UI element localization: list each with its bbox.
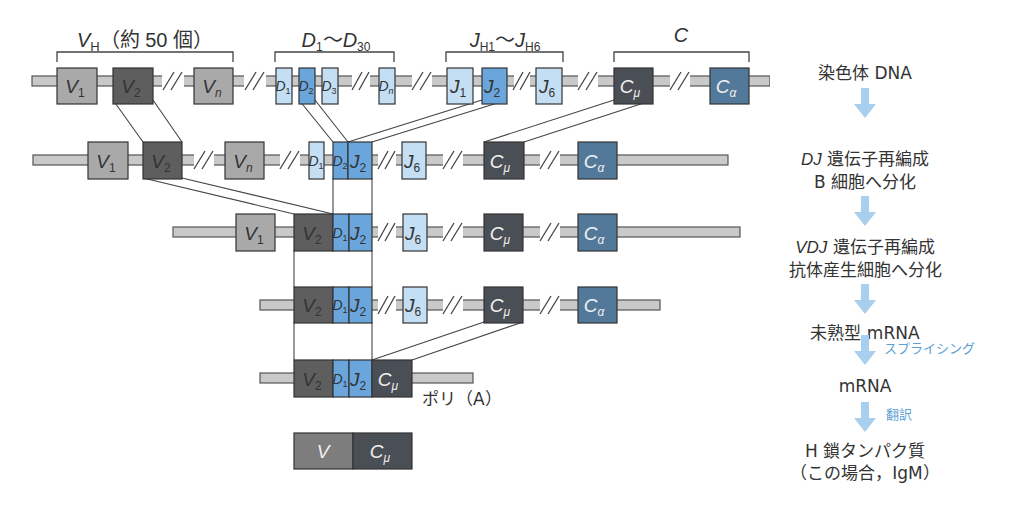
splicing-label: スプライシング (884, 338, 975, 357)
segment-Vn: Vn (194, 68, 233, 104)
c-bracket (614, 52, 749, 62)
d-bracket (275, 52, 394, 62)
translation-label: 翻訳 (886, 404, 912, 423)
row-mature-mrna: V2 D1 J2 Cμ ポリ（A） (260, 360, 502, 409)
segment-V1: V1 (236, 214, 275, 251)
segment-V2: V2 (113, 68, 153, 104)
segment-Cmu: Cμ (484, 142, 524, 179)
step-mrna: mRNA (770, 375, 960, 397)
segment-D2: D2 (298, 68, 315, 104)
step-heavy-chain-protein: H 鎖タンパク質 （この場合，IgM） (770, 440, 960, 484)
gene-rearrangement-diagram: .bar { fill: #c9c9c9; stroke: #555; stro… (0, 0, 770, 511)
segment-D3: D3 (321, 68, 338, 104)
segment-V2: V2 (294, 287, 333, 323)
segment-D1: D1 (332, 287, 349, 323)
segment-V2: V2 (294, 360, 333, 397)
segment-Calpha: Cα (578, 214, 617, 251)
d-group-label: D1〜D30 (302, 29, 371, 54)
row-pre-mrna: V2 D1 J2 J6 Cμ Cα (260, 287, 660, 323)
step-vdj-rearrangement: VDJ 遺伝子再編成 抗体産生細胞へ分化 (770, 236, 960, 281)
segment-Cmu: Cμ (372, 360, 412, 397)
step-dj-rearrangement: DJ 遺伝子再編成 B 細胞へ分化 (770, 148, 960, 193)
step-chromosome-dna: 染色体 DNA (770, 62, 960, 84)
segment-Cmu: Cμ (484, 214, 523, 251)
segment-J2: J2 (349, 287, 372, 323)
segment-J6: J6 (402, 142, 426, 179)
poly-a-label: ポリ（A） (422, 389, 502, 409)
segment-J2: J2 (482, 68, 507, 104)
row-germline-dna: V1 V2 Vn D1 D2 D3 Dn J1 J2 J6 Cμ Cα (32, 68, 770, 104)
segment-D1: D1 (332, 214, 349, 251)
segment-Vn: Vn (225, 142, 264, 179)
segment-D2: D2 (332, 142, 348, 179)
segment-Calpha: Cα (578, 142, 617, 179)
segment-V2: V2 (143, 142, 182, 179)
segment-J6: J6 (403, 287, 427, 323)
segment-J2: J2 (348, 142, 372, 179)
down-arrow-icon (854, 335, 876, 365)
vh-group-label: VH（約 50 個） (77, 29, 213, 54)
down-arrow-icon (854, 284, 876, 314)
segment-J2: J2 (349, 214, 372, 251)
row-vdj-rearranged: V1 V2 D1 J2 J6 Cμ Cα (173, 214, 740, 251)
segment-D1: D1 (332, 360, 349, 397)
group-labels: VH（約 50 個） D1〜D30 JH1〜JH6 C (57, 24, 749, 62)
segment-Calpha: Cα (578, 287, 617, 323)
c-group-label: C (674, 24, 689, 46)
row-dj-rearranged: V1 V2 Vn D1 D2 J2 J6 Cμ Cα (33, 142, 728, 179)
segment-Dn: Dn (378, 68, 395, 104)
segment-J6: J6 (403, 214, 427, 251)
segment-Cmu: Cμ (614, 68, 653, 104)
domain-V: V (294, 433, 353, 469)
down-arrow-icon (854, 88, 876, 118)
segment-Cmu: Cμ (484, 287, 523, 323)
jh-group-label: JH1〜JH6 (469, 29, 541, 54)
segment-J2: J2 (349, 360, 372, 397)
row-heavy-chain-protein: V Cμ (294, 433, 412, 469)
jh-bracket (446, 52, 563, 62)
segment-D1: D1 (308, 142, 324, 179)
segment-J6: J6 (536, 68, 562, 104)
domain-Cmu: Cμ (353, 433, 412, 469)
segment-V1: V1 (88, 142, 128, 179)
segment-D1: D1 (275, 68, 292, 104)
segment-V1: V1 (57, 68, 97, 104)
segment-Calpha: Cα (710, 68, 749, 104)
segment-J1: J1 (447, 68, 473, 104)
vh-bracket (57, 52, 233, 62)
segment-V2: V2 (294, 214, 333, 251)
down-arrow-icon (854, 196, 876, 226)
process-flow: 染色体 DNA DJ 遺伝子再編成 B 細胞へ分化 VDJ 遺伝子再編成 抗体産… (770, 0, 1022, 511)
down-arrow-icon (854, 402, 876, 432)
